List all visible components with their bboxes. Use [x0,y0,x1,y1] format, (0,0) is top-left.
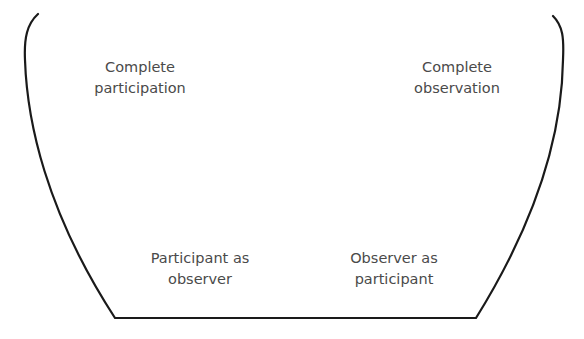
label-line: observer [151,269,250,290]
label-observer-as-participant: Observer as participant [350,248,438,290]
label-complete-observation: Complete observation [414,57,500,99]
label-line: participation [94,78,186,99]
label-line: participant [350,269,438,290]
label-line: observation [414,78,500,99]
label-line: Complete [94,57,186,78]
label-participant-as-observer: Participant as observer [151,248,250,290]
label-line: Participant as [151,248,250,269]
label-complete-participation: Complete participation [94,57,186,99]
bowl-outline [0,0,584,339]
label-line: Observer as [350,248,438,269]
label-line: Complete [414,57,500,78]
observation-roles-diagram: Complete participation Complete observat… [0,0,584,339]
